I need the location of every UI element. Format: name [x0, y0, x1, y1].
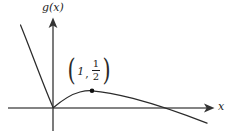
curve-left-branch — [21, 25, 54, 108]
y-axis-label: g(x) — [42, 2, 64, 13]
open-paren: ( — [68, 56, 76, 85]
fraction-numerator: 1 — [93, 59, 99, 69]
point-coordinate-label: ( 1 , 1 2 ) — [66, 56, 112, 85]
point-y-fraction: 1 2 — [91, 59, 101, 81]
x-axis-label: x — [218, 101, 224, 112]
point-x-value: 1 — [77, 66, 85, 77]
close-paren: ) — [102, 56, 110, 85]
plot-svg — [0, 0, 230, 136]
point-marker-1-half — [90, 89, 95, 94]
graph-figure: g(x) x ( 1 , 1 2 ) — [0, 0, 230, 136]
curve-right-branch — [53, 91, 207, 123]
fraction-denominator: 2 — [93, 72, 99, 82]
